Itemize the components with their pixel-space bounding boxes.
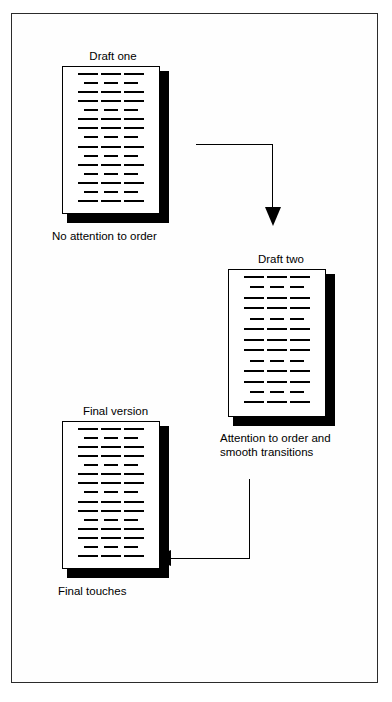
document-line-dash [124,437,138,439]
document-line-dash [78,73,98,75]
document-line-dash [104,437,118,439]
document-line-dash [124,136,138,138]
document-line-dash [78,446,98,448]
document-line-dash [124,191,138,193]
document-sheet-draft-two [228,269,330,421]
document-line-dash [84,109,98,111]
document-line-dash [270,286,284,288]
document-text-lines-draft-one [63,67,159,213]
document-line-row [84,173,138,175]
document-line-dash [78,200,98,202]
document-line-row [84,82,138,84]
document-line-dash [244,339,264,341]
document-line-dash [267,381,287,383]
document-line-row [78,182,144,184]
document-page [62,66,160,214]
document-line-dash [84,173,98,175]
document-line-dash [104,155,118,157]
document-line-row [78,537,144,539]
connector-horizontal-segment [196,144,273,145]
document-node-draft-one[interactable]: Draft one No attention to order [62,49,180,249]
document-line-dash [124,73,144,75]
document-line-dash [101,127,121,129]
document-line-dash [78,455,98,457]
document-line-row [78,482,144,484]
document-text-lines-draft-two [229,270,325,416]
diagram-frame: Draft one No attention to order Draft tw… [11,13,378,683]
document-sheet-final-version [62,421,164,573]
document-line-row [78,118,144,120]
document-line-dash [267,307,287,309]
document-line-dash [124,519,138,521]
document-line-row [84,155,138,157]
document-line-row [78,164,144,166]
document-line-dash [244,349,264,351]
document-line-dash [78,510,98,512]
document-line-dash [290,391,304,393]
document-line-dash [267,401,287,403]
document-line-dash [267,349,287,351]
document-line-dash [124,537,144,539]
document-line-row [84,191,138,193]
document-line-row [84,546,138,548]
document-line-dash [101,73,121,75]
document-line-dash [124,446,144,448]
document-line-dash [101,455,121,457]
document-line-row [84,109,138,111]
document-line-dash [267,276,287,278]
document-line-dash [101,91,121,93]
document-line-dash [84,82,98,84]
document-line-dash [101,182,121,184]
document-line-dash [104,519,118,521]
document-line-dash [124,455,144,457]
document-line-dash [267,370,287,372]
document-line-dash [101,428,121,430]
document-line-row [78,555,144,557]
document-line-dash [290,339,310,341]
document-line-dash [101,501,121,503]
document-line-dash [124,491,138,493]
document-line-dash [124,118,144,120]
document-line-dash [124,91,144,93]
document-line-dash [104,136,118,138]
document-line-dash [101,537,121,539]
document-line-row [84,437,138,439]
document-line-row [84,136,138,138]
document-line-row [78,501,144,503]
document-line-dash [124,155,138,157]
document-line-row [250,391,304,393]
document-node-final-version[interactable]: Final version Final touches [62,404,192,609]
document-line-dash [78,428,98,430]
document-line-row [250,318,304,320]
document-line-dash [124,428,144,430]
document-line-row [78,200,144,202]
document-line-dash [78,482,98,484]
document-line-dash [124,464,138,466]
document-line-row [78,127,144,129]
document-line-row [244,349,310,351]
document-line-row [250,286,304,288]
document-sheet-draft-one [62,66,164,218]
document-line-dash [267,297,287,299]
document-text-lines-final-version [63,422,159,568]
document-page [228,269,326,417]
document-line-dash [104,82,118,84]
document-line-dash [84,437,98,439]
document-line-dash [290,297,310,299]
document-line-dash [124,528,144,530]
document-line-dash [104,546,118,548]
document-line-dash [104,173,118,175]
document-line-dash [124,473,144,475]
document-line-dash [244,328,264,330]
document-line-dash [250,286,264,288]
document-line-dash [124,173,138,175]
document-line-dash [290,276,310,278]
document-node-draft-two[interactable]: Draft two Attention to order and smooth … [222,252,352,457]
document-line-dash [78,127,98,129]
document-line-dash [270,360,284,362]
document-line-row [78,146,144,148]
document-line-dash [101,100,121,102]
document-line-dash [124,127,144,129]
document-line-dash [124,164,144,166]
document-line-dash [124,501,144,503]
